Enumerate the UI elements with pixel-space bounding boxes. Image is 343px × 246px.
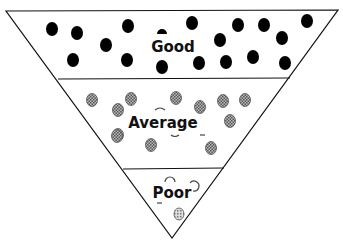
average-dot <box>195 101 206 114</box>
poor-section-dots <box>174 208 184 220</box>
average-dot <box>225 115 236 128</box>
good-dot <box>121 53 133 67</box>
average-dot <box>126 93 137 106</box>
good-dot <box>247 50 259 64</box>
good-label: Good <box>151 38 195 56</box>
average-dot <box>171 92 182 105</box>
good-dot <box>220 55 232 69</box>
average-label: Average <box>128 114 197 132</box>
inverted-triangle-diagram: Good Average Poor <box>0 0 343 246</box>
average-dot <box>206 142 217 155</box>
poor-dot <box>174 208 184 220</box>
average-dot <box>218 95 229 108</box>
good-dot <box>71 26 83 40</box>
good-dot <box>214 33 226 47</box>
good-dot <box>122 19 134 33</box>
good-dot <box>301 14 313 28</box>
good-dot <box>276 31 288 45</box>
good-dot <box>193 56 205 70</box>
average-dot <box>240 94 251 107</box>
good-dot <box>46 22 58 36</box>
average-dot <box>113 104 124 117</box>
average-dot <box>87 94 98 107</box>
good-dot <box>67 53 79 67</box>
good-dot <box>279 56 291 70</box>
good-dot <box>258 18 270 32</box>
good-dot <box>100 38 112 52</box>
good-dot <box>186 16 198 30</box>
poor-label: Poor <box>152 184 192 202</box>
average-dot <box>146 139 157 152</box>
good-dot <box>156 60 168 74</box>
average-dot <box>112 130 123 143</box>
good-dot <box>232 18 244 32</box>
